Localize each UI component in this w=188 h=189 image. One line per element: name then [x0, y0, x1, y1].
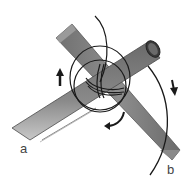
label-b: b — [167, 163, 174, 176]
arrow-curved-icon — [104, 112, 124, 130]
lashing-diagram: a b — [0, 0, 188, 189]
label-a: a — [20, 142, 27, 155]
arrow-down-icon — [170, 80, 178, 96]
lashing-illustration — [0, 0, 188, 189]
arrow-up-icon — [56, 68, 64, 86]
